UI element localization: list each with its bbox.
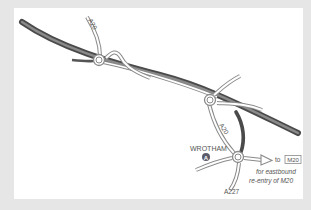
label-to: to [275, 156, 281, 163]
slip-road-westbound [72, 60, 217, 97]
label-m20-shield: M20 [287, 157, 299, 163]
roads-roundabout-south [196, 158, 262, 190]
slip-road-eastbound-reentry [236, 112, 243, 152]
route-map: A A20 A20 WROTHAM A227 to M20 for eastbo… [0, 0, 311, 210]
motorway-shield-m20: M20 [285, 156, 301, 164]
wrotham-marker-icon: A [202, 153, 210, 161]
label-wrotham: WROTHAM [190, 145, 227, 152]
wrotham-marker-letter: A [204, 155, 209, 161]
label-note-line1: for eastbound [256, 168, 296, 175]
roundabout-central [205, 95, 216, 106]
roundabout-west [94, 55, 105, 66]
label-a227: A227 [224, 188, 240, 195]
direction-arrow-icon [261, 155, 272, 165]
label-note-line2: re-entry of M20 [249, 177, 293, 185]
roundabout-south [233, 152, 244, 163]
